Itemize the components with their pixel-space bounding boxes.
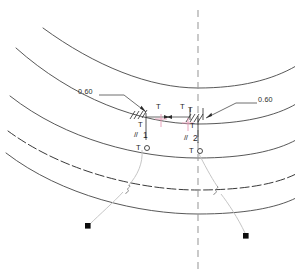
leader-terminator-right [243,233,249,239]
dimension-label-left: 0.60 [78,88,93,95]
weld-symbol-right-index: 2 [193,134,198,142]
dimension-label-right: 0.60 [258,96,273,103]
arc-5 [6,153,295,214]
arc-1 [43,28,295,88]
weld-symbol-right-upper-T: T [180,103,185,111]
dimension-arrowhead-right [206,113,212,118]
leader-curve-left-upper [128,150,142,186]
reference-arrowhead-left [164,115,169,119]
arc-2 [16,48,295,124]
weld-symbol-right-lower-T: T [190,122,195,130]
weld-symbol-left-index: 1 [143,131,148,139]
weld-symbol-right-upper-T2: T [188,106,193,114]
break-squiggle-left [126,185,130,194]
weld-symbol-left-circle-T: T [136,144,141,152]
weld-all-around-circle-right [198,149,203,154]
dimension-leader-group [99,95,257,118]
leader-terminator-left [85,223,91,229]
leader-curve-left-lower [89,192,123,225]
weld-symbol-left-parallel: // [134,131,138,139]
drawing-vector-layer [0,0,295,280]
weld-hatch-right-4 [198,114,203,122]
weld-symbol-right-circle-T: T [189,147,194,155]
arc-group [6,28,295,214]
weld-symbol-left-upper-T: T [156,103,161,111]
leader-curve-group [89,150,245,233]
leader-curve-right-upper [198,152,217,186]
arc-3 [10,96,295,158]
weld-symbol-left-lower-T: T [138,121,143,129]
weld-symbol-right-parallel: // [184,134,188,142]
weld-hatch-left-1 [130,111,135,119]
drawing-canvas: 0.60 0.60 T T // 1 T T T T // 2 T [0,0,295,280]
reference-line-group [146,115,190,119]
break-squiggle-right [214,186,218,195]
arc-4-hidden [8,131,295,190]
weld-all-around-circle-left [145,146,150,151]
